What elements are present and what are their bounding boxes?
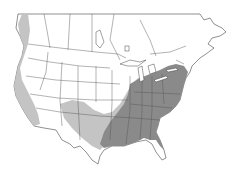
- range-map: [0, 0, 242, 177]
- small-lake: [125, 46, 129, 51]
